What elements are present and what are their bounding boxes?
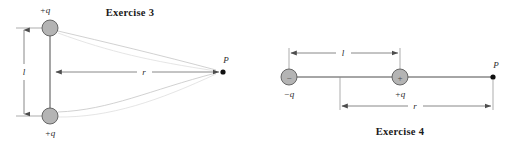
ex4-dimension-l: l [291,48,398,58]
ex4-point-p-label: P [492,60,499,70]
ex4-dim-l-label: l [342,48,345,58]
field-line-bottom-lower [56,74,216,117]
exercise-4-panel: Exercise 4 l r [281,48,499,137]
charge-circle-positive-bottom [42,108,58,124]
ex3-charge-bottom: +q [42,108,58,138]
ex4-dim-r-label: r [413,101,417,111]
ex4-extension-lines [289,48,493,110]
exercise-4-title: Exercise 4 [376,126,425,137]
ex4-charge-negative-label: −q [284,89,295,99]
ex4-charge-positive-label: +q [395,89,406,99]
ex3-field-lines [56,31,216,117]
ex4-charge-negative: − −q [281,69,297,99]
exercise-3-panel: Exercise 3 l r [16,5,229,138]
ex4-dimension-r: r [342,101,491,111]
ex4-point-p: P [490,60,499,80]
ex3-dimension-r: r [56,67,219,77]
field-line-top-upper [58,31,216,70]
charge-circle-positive-top [42,20,58,36]
minus-sign-icon: − [286,73,291,83]
ex3-point-p-label: P [222,55,229,65]
ex3-charge-bottom-label: +q [45,128,56,138]
ex3-point-p-dot [220,69,225,74]
ex3-dim-r-label: r [142,67,146,77]
field-line-bottom-upper [58,73,216,112]
plus-sign-icon: + [397,73,402,83]
exercise-3-title: Exercise 3 [106,7,155,18]
ex3-dimension-l: l [16,28,42,116]
ex3-charge-top-label: +q [40,5,51,15]
figure-canvas: Exercise 3 l r [0,0,514,148]
field-line-top-lower [58,33,216,71]
physics-diagram-svg: Exercise 3 l r [0,0,514,148]
ex4-point-p-dot [490,74,495,79]
ex4-charge-positive: + +q [392,69,408,99]
ex3-point-p: P [220,55,229,75]
ex3-charge-top: +q [40,5,58,36]
ex3-dim-l-label: l [23,67,26,77]
